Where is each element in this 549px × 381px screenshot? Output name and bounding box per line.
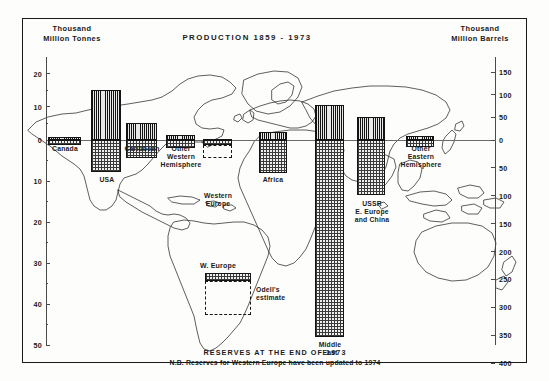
- caption-primary: RESERVES AT THE END OF 1973: [125, 348, 425, 357]
- legend-estimate-label: Odell's estimate: [256, 286, 285, 302]
- bar-label: USA: [87, 176, 127, 184]
- bar-label: Other Western Hemisphere: [160, 145, 202, 169]
- production-bar: [259, 132, 287, 140]
- bar-label: Caribbean: [120, 145, 164, 153]
- reserves-bar: [259, 140, 287, 173]
- bar-label: Other Eastern Hemisphere: [397, 145, 445, 169]
- production-bar: [126, 123, 157, 140]
- reserves-bar: [357, 140, 385, 195]
- bar-label: USSR E. Europe and China: [348, 200, 396, 224]
- odell-estimate-bar: [203, 145, 232, 158]
- production-bar: [315, 105, 344, 140]
- legend-reserves-swatch: [205, 273, 251, 281]
- legend: W. Europe Odell's estimate: [196, 262, 306, 324]
- legend-estimate-swatch: [205, 281, 251, 315]
- production-bar: [91, 90, 121, 140]
- bar-label: Canada: [44, 145, 86, 153]
- bar-label: Africa: [252, 176, 294, 184]
- chart-page: 201001020304050 150100500501001502002503…: [0, 0, 549, 381]
- reserves-bar: [91, 140, 121, 172]
- bar-label: Western Europe: [196, 192, 240, 208]
- production-bar: [357, 117, 385, 140]
- caption-note: N.B. Reserves for Western Europe have be…: [105, 359, 445, 366]
- reserves-bar: [315, 140, 344, 337]
- legend-title: W. Europe: [200, 262, 236, 269]
